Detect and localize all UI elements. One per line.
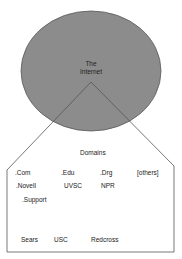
internet-label-line2: Internet — [76, 69, 106, 76]
diagram-canvas — [0, 0, 182, 259]
domain-npr: NPR — [101, 183, 115, 190]
domain-org: .Drg — [100, 170, 112, 177]
domains-title: Domains — [80, 150, 106, 157]
domain-novell: .Novell — [16, 183, 36, 190]
internet-label: The Internet — [76, 61, 106, 75]
domain-sears: Sears — [21, 237, 38, 244]
domain-edu: .Edu — [61, 170, 74, 177]
domain-com: .Com — [15, 170, 31, 177]
internet-label-line1: The — [76, 61, 106, 68]
domain-others: [others] — [137, 170, 159, 177]
domain-support: .Support — [22, 197, 47, 204]
domain-usc: USC — [54, 237, 68, 244]
domain-redcross: Redcross — [91, 237, 118, 244]
domain-uvsc: UVSC — [64, 183, 82, 190]
